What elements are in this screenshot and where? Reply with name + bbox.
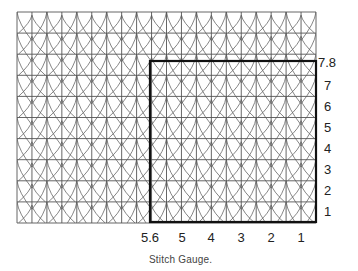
row-label-4: 4 (324, 142, 331, 155)
stitch-label-4: 4 (207, 231, 214, 244)
row-label-2: 2 (324, 184, 331, 197)
row-label-1: 1 (324, 205, 331, 218)
stitch-label-5: 5 (178, 231, 185, 244)
stitch-label-5-6: 5.6 (141, 231, 159, 244)
stitch-label-3: 3 (237, 231, 244, 244)
row-label-7: 7 (324, 79, 331, 92)
stitch-label-1: 1 (297, 231, 304, 244)
row-label-5: 5 (324, 121, 331, 134)
figure-caption: Stitch Gauge. (149, 254, 212, 265)
row-label-6: 6 (324, 100, 331, 113)
stitch-label-2: 2 (267, 231, 274, 244)
row-label-7-8: 7.8 (318, 56, 336, 69)
stitch-gauge-diagram: 7.8 7 6 5 4 3 2 1 5.6 5 4 3 2 1 Stitch G… (0, 0, 358, 271)
row-label-3: 3 (324, 163, 331, 176)
